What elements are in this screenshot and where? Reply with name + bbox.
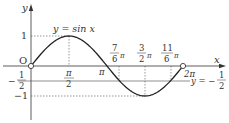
- x-axis-arrow-icon: [219, 64, 226, 68]
- x-tick-7-den: 6: [112, 54, 117, 64]
- y-tick-neg-half-den: 2: [19, 81, 24, 91]
- x-tick-7-pi: π: [119, 52, 125, 60]
- origin-label: O: [19, 55, 27, 66]
- x-axis-label: x: [214, 54, 220, 65]
- y-tick-neg-half-sign: −: [8, 76, 16, 86]
- x-tick-3-den: 2: [139, 54, 144, 64]
- y-tick-1: 1: [21, 30, 27, 41]
- y-axis-arrow-icon: [29, 4, 33, 11]
- sine-graph: y x O y = sin x 1 −1 − 1 2 π 2 π 7 6 π 3…: [0, 0, 229, 123]
- x-tick-pi: π: [98, 67, 105, 77]
- x-tick-pi-half-den: 2: [66, 79, 71, 89]
- neg-half-line-label: y = −: [190, 76, 215, 86]
- origin-open-point: [28, 63, 33, 68]
- x-tick-3-num: 3: [139, 43, 144, 53]
- x-tick-3-pi: π: [146, 52, 152, 60]
- x-tick-11-num: 11: [162, 43, 173, 53]
- neg-half-line-den: 2: [219, 81, 224, 91]
- y-axis-label: y: [21, 2, 28, 13]
- function-label: y = sin x: [52, 23, 95, 34]
- x-tick-7-num: 7: [112, 43, 117, 53]
- two-pi-open-point: [180, 63, 185, 68]
- x-tick-11-pi: π: [173, 52, 179, 60]
- y-tick-neg-half-num: 1: [19, 70, 24, 80]
- neg-half-line-num: 1: [219, 70, 224, 80]
- x-tick-11-den: 6: [164, 54, 169, 64]
- y-tick-neg1: −1: [14, 90, 28, 101]
- x-tick-pi-half-num: π: [65, 68, 72, 78]
